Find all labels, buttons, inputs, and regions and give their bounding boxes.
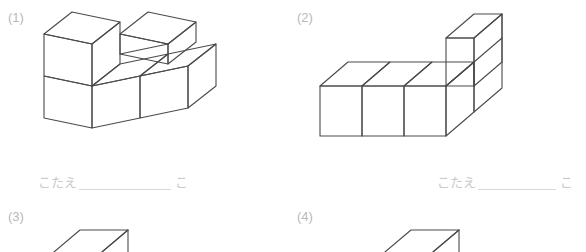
problem-number-4: (4) <box>297 210 313 223</box>
answer-input-2[interactable] <box>478 173 556 190</box>
answer-input-1[interactable] <box>79 173 171 190</box>
answer-row-1: こたえ こ <box>38 170 188 190</box>
figure-problem-1 <box>30 4 230 134</box>
cube-stack-2-geometry <box>320 14 502 136</box>
cube-stack-1-svg <box>30 4 230 134</box>
cube-stack-4-geometry <box>385 230 459 252</box>
answer-label-1: こたえ <box>38 175 79 190</box>
figure-problem-4 <box>383 222 503 252</box>
answer-unit-1: こ <box>171 175 188 190</box>
problem-number-3: (3) <box>8 210 24 223</box>
cube-stack-2-svg <box>310 4 540 144</box>
cube-stack-4-svg <box>383 222 503 252</box>
figure-problem-3 <box>50 222 160 252</box>
figure-problem-2 <box>310 4 540 144</box>
cube-stack-1-geometry <box>44 12 216 128</box>
problem-number-1: (1) <box>8 11 24 24</box>
cube-stack-3-geometry <box>54 230 128 252</box>
answer-row-2: こたえ こ <box>437 170 573 190</box>
cube-stack-3-svg <box>50 222 160 252</box>
answer-label-2: こたえ <box>437 175 478 190</box>
answer-unit-2: こ <box>556 175 573 190</box>
